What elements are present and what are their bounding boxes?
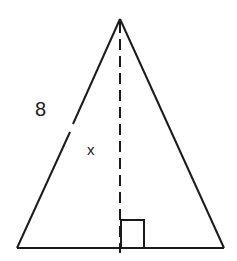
side-label: 8 [35,98,46,120]
altitude-label: x [87,141,95,158]
left-side-lower [17,132,70,248]
right-angle-marker [121,220,144,248]
left-side-upper [73,19,120,124]
triangle-diagram: 8 x [0,0,237,261]
right-side [120,19,224,248]
